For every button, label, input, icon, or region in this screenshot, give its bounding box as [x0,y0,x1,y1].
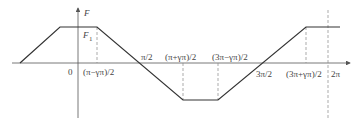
x-label-a: (π−γπ)/2 [83,67,114,77]
y-axis-label: F [83,8,90,18]
x-label-f: (3π+γπ)/2 [286,69,322,79]
x-label-c: (π+γπ)/2 [165,52,196,62]
trapezoidal-waveform-diagram: F F 1 0 (π−γπ)/2 π/2 (π+γπ)/2 (3π−γπ)/2 … [0,0,363,128]
x-label-b: π/2 [141,52,153,62]
x-label-e: 3π/2 [256,69,272,79]
waveform-line [20,27,340,100]
x-label-g: 2π [331,69,341,79]
x-label-d: (3π−γπ)/2 [212,52,248,62]
origin-label: 0 [68,67,73,77]
dashed-guides [97,10,328,120]
level-label: F [82,30,89,40]
level-subscript: 1 [89,35,93,43]
